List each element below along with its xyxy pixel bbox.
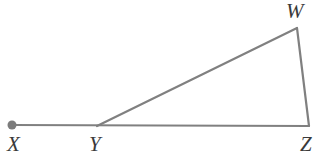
vertex-label-z: Z [300, 134, 312, 155]
segment-w-z [297, 28, 309, 126]
geometry-figure: X Y Z W [0, 0, 322, 164]
point-x-dot [8, 121, 17, 130]
vertex-label-y: Y [89, 134, 101, 155]
segment-y-w [97, 28, 297, 126]
vertex-label-w: W [286, 1, 304, 22]
segment-x-z [12, 125, 309, 126]
figure-canvas [0, 0, 322, 164]
vertex-label-x: X [7, 134, 20, 155]
